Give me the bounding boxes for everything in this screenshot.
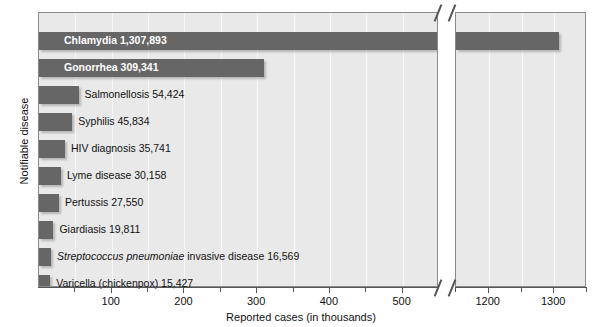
bar [39, 32, 438, 50]
x-tick-major [488, 287, 489, 293]
bar [39, 275, 50, 287]
bar [39, 86, 79, 104]
x-tick-minor [365, 287, 366, 292]
bar [39, 167, 61, 185]
x-tick-label: 100 [81, 295, 141, 307]
x-tick-major [329, 287, 330, 293]
x-tick-minor [220, 287, 221, 292]
x-tick-label: 400 [299, 295, 359, 307]
x-tick-minor [586, 287, 587, 292]
bar [39, 194, 59, 212]
y-axis-title: Notifiable disease [18, 41, 30, 241]
x-tick-major [183, 287, 184, 293]
bar-continuation [456, 32, 559, 50]
x-tick-major [256, 287, 257, 293]
bars-left [39, 13, 437, 286]
bar [39, 113, 72, 131]
x-tick-label: 300 [226, 295, 286, 307]
plot-panel-left [38, 12, 438, 287]
x-tick-label: 200 [153, 295, 213, 307]
x-tick-minor [147, 287, 148, 292]
x-tick-minor [455, 287, 456, 292]
plot-panel-right [455, 12, 586, 287]
axis-line-left [38, 287, 439, 288]
bar [39, 248, 51, 266]
x-axis-title: Reported cases (in thousands) [0, 311, 602, 323]
bar [39, 140, 65, 158]
bar [39, 59, 264, 77]
x-tick-major [111, 287, 112, 293]
x-tick-minor [74, 287, 75, 292]
x-tick-label: 1300 [523, 295, 583, 307]
chart-figure: Notifiable disease Chlamydia 1,307,893Go… [0, 0, 602, 327]
x-tick-major [402, 287, 403, 293]
x-tick-minor [521, 287, 522, 292]
bars-right [456, 13, 585, 286]
x-axis: 10020030040050012001300 Reported cases (… [0, 287, 602, 327]
x-tick-label: 500 [372, 295, 432, 307]
x-tick-major [553, 287, 554, 293]
x-tick-label: 1200 [458, 295, 518, 307]
x-tick-minor [293, 287, 294, 292]
bar [39, 221, 53, 239]
